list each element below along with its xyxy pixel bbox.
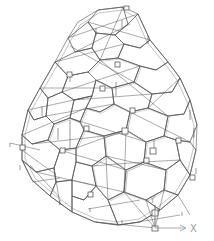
bracing-lines [10,7,190,228]
support-ticks [10,20,196,224]
x-axis-label: X [190,223,197,234]
wireframe-shell-model: X Y [0,0,214,241]
honeycomb-cells [22,7,197,225]
joint-nodes [20,6,195,231]
model-viewport[interactable]: X Y [0,0,214,241]
y-axis-label: Y [149,196,155,205]
